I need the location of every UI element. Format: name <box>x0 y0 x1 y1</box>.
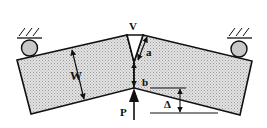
left-roller-support <box>17 28 42 56</box>
right-roller-support <box>227 28 252 57</box>
notch-label: V <box>129 21 137 32</box>
load-arrow <box>129 88 139 120</box>
load-label: P <box>120 107 127 118</box>
deflection-label: Δ <box>164 99 171 110</box>
notch-depth-label: a <box>146 47 152 58</box>
width-label: W <box>70 70 82 82</box>
ligament-label: b <box>142 77 148 88</box>
